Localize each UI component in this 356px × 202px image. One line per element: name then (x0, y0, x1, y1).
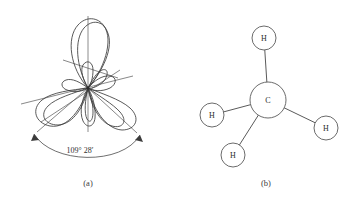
figure-root: 109° 28′ (a) H H H H C (0, 0, 356, 202)
lobe-up (71, 19, 108, 88)
hydrogen-right-label: H (323, 124, 329, 133)
caption-figure-a: (a) (83, 178, 93, 188)
scientific-figure-svg: 109° 28′ (a) H H H H C (0, 0, 356, 202)
hydrogen-left-label: H (209, 111, 215, 120)
nucleus-point (86, 86, 89, 89)
lobe-down-right-inner (88, 88, 124, 127)
angle-arrow-head-right (135, 135, 143, 142)
caption-figure-b: (b) (261, 178, 271, 188)
angle-label: 109° 28′ (67, 146, 94, 155)
hydrogen-top-label: H (261, 34, 267, 43)
carbon-label: C (265, 96, 270, 105)
hydrogen-bottom-label: H (230, 151, 236, 160)
figure-b-group: H H H H C (b) (200, 26, 338, 188)
figure-a-group: 109° 28′ (a) (21, 16, 143, 188)
